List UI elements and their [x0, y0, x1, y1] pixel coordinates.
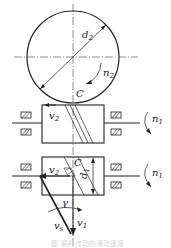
label-n1-bottom: n1 [152, 167, 163, 180]
worm-top [12, 103, 151, 143]
label-c-bottom: C [74, 157, 82, 168]
label-d2: d2 [82, 29, 93, 42]
label-vs: vs [54, 220, 64, 233]
label-n2: n2 [103, 67, 114, 80]
label-gamma: γ [62, 197, 68, 208]
label-c-top: C [76, 88, 84, 99]
figure-caption: 图 蜗杆传动的滑动速度 [10, 238, 165, 248]
label-v1: v1 [77, 217, 87, 230]
label-n1-top: n1 [152, 113, 163, 126]
worm-wheel [14, 4, 138, 248]
label-v2-top: v2 [49, 110, 60, 123]
worm-gear-diagram: d2 n2 C v2 n1 [0, 0, 171, 248]
label-v2-bottom: v2 [49, 164, 60, 177]
